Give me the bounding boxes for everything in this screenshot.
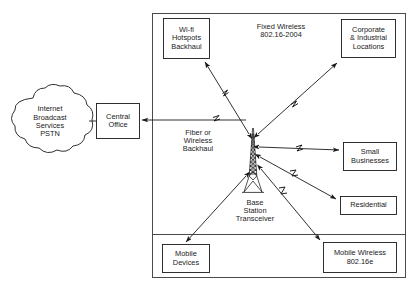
link-tower-to-residential: [260, 157, 336, 199]
small-businesses-box-label: Small Businesses: [344, 143, 396, 170]
central-office-box-label: Central Office: [97, 104, 139, 138]
backhaul-zone-label: Fiber or Wireless Backhaul: [162, 124, 234, 158]
fixed-wireless-zone-label: Fixed Wireless 802.16-2004: [234, 20, 328, 42]
corporate-industrial-locations-box-label: Corporate & Industrial Locations: [342, 20, 395, 57]
wifi-hotspots-backhaul-box-label: Wi-fi Hotspots Backhaul: [164, 19, 209, 58]
diagram-canvas: Internet Broadcast Services PSTN Central…: [0, 0, 418, 290]
base-station-tower-label: Base Station Transceiver: [221, 194, 289, 228]
link-tower-to-small-businesses: [259, 145, 339, 151]
mobile-devices-box-label: Mobile Devices: [163, 245, 209, 272]
link-backhaul-to-central-office: [142, 116, 246, 122]
residential-box-label: Residential: [341, 197, 396, 214]
link-tower-to-corporate: [258, 63, 337, 134]
mobile-wireless-box-label: Mobile Wireless 802.16e: [324, 243, 396, 272]
base-station-tower-shape: [242, 128, 264, 192]
core-network-cloud-label: Internet Broadcast Services PSTN: [18, 100, 82, 144]
